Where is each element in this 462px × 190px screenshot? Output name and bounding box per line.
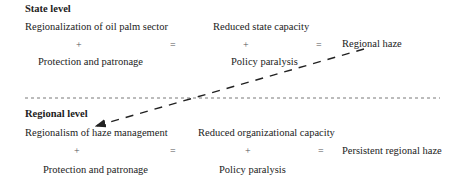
dashed-arrow-regional-haze-to-regionalism: [96, 49, 364, 126]
connector-layer: [0, 0, 462, 190]
